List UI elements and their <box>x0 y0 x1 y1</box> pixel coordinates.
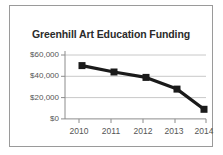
y-tick-label-40000: $40,000 <box>12 71 59 80</box>
data-point-2014 <box>201 106 208 113</box>
x-tick-label-2012: 2012 <box>127 126 159 136</box>
x-tick-label-2011: 2011 <box>95 126 127 136</box>
x-tick-label-2013: 2013 <box>158 126 190 136</box>
data-line-funding <box>82 66 204 110</box>
data-point-2010 <box>79 62 86 69</box>
x-tick-label-2014: 2014 <box>188 126 220 136</box>
data-point-2012 <box>143 74 150 81</box>
chart-container: Greenhill Art Education Funding $60,000 … <box>9 5 213 147</box>
data-point-2011 <box>111 69 118 76</box>
data-point-2013 <box>174 86 181 93</box>
y-tick-label-0: $0 <box>12 114 59 123</box>
y-tick-label-60000: $60,000 <box>12 50 59 59</box>
x-tick-label-2010: 2010 <box>63 126 95 136</box>
y-tick-label-20000: $20,000 <box>12 93 59 102</box>
